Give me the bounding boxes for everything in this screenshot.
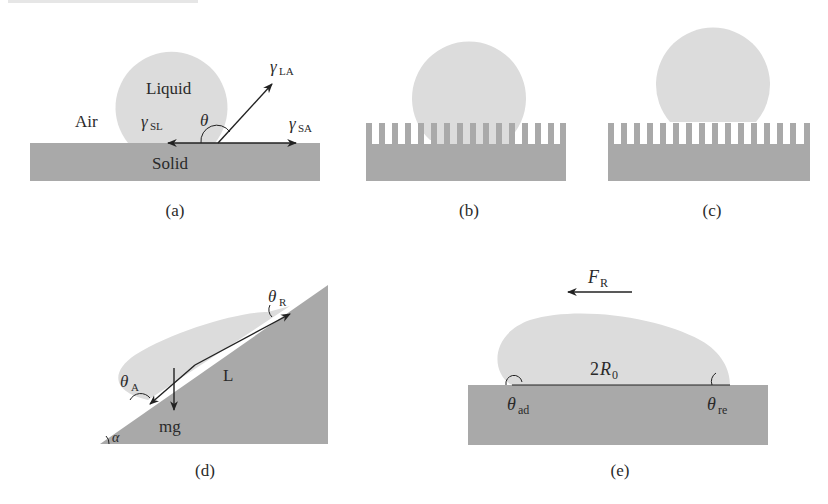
caption-e: (e) (611, 461, 630, 480)
solid-label: Solid (152, 154, 188, 173)
alpha-label: α (112, 430, 120, 445)
svg-text:R: R (600, 276, 608, 290)
air-label: Air (75, 112, 98, 131)
panel-a: Liquid Air Solid θ γ SL γ LA γ SA (a) (30, 52, 320, 220)
svg-text:SA: SA (298, 122, 312, 134)
svg-text:SL: SL (150, 120, 163, 132)
svg-text:R: R (279, 296, 287, 308)
gamma-la-label: γ LA (270, 57, 294, 77)
theta-label: θ (200, 111, 208, 130)
svg-text:ad: ad (518, 403, 529, 417)
cassie-droplet (656, 28, 770, 122)
svg-text:0: 0 (612, 368, 618, 382)
svg-text:θ: θ (268, 287, 276, 306)
panel-d: θ R θ A L mg α (d) (100, 285, 328, 480)
pillars (608, 123, 810, 145)
svg-text:A: A (131, 381, 139, 393)
svg-text:θ: θ (707, 394, 716, 414)
gamma-sa-label: γ SA (289, 114, 312, 134)
caption-b: (b) (459, 201, 479, 220)
liquid-label: Liquid (146, 79, 192, 98)
svg-text:F: F (587, 267, 600, 287)
theta-r-label: θ R (268, 287, 287, 308)
length-label: L (223, 366, 233, 385)
caption-c: (c) (703, 201, 722, 220)
caption-a: (a) (166, 201, 185, 220)
panel-e: F R 2 R 0 θ ad θ re (e) (468, 267, 768, 480)
weight-label: mg (159, 417, 181, 436)
svg-text:LA: LA (279, 65, 294, 77)
svg-text:θ: θ (507, 394, 516, 414)
svg-text:γ: γ (289, 114, 297, 133)
panel-c: (c) (608, 28, 810, 220)
force-label: F R (587, 267, 608, 290)
svg-text:2: 2 (590, 359, 599, 379)
svg-text:θ: θ (120, 372, 128, 391)
svg-text:γ: γ (270, 57, 278, 76)
svg-text:re: re (718, 403, 727, 417)
rough-substrate (366, 144, 566, 181)
caption-d: (d) (195, 461, 215, 480)
wetting-diagram: Liquid Air Solid θ γ SL γ LA γ SA (a) (0, 0, 828, 504)
svg-text:R: R (599, 359, 611, 379)
panel-b: (b) (366, 41, 566, 220)
header-remnant (8, 0, 198, 3)
rough-substrate (608, 144, 810, 181)
